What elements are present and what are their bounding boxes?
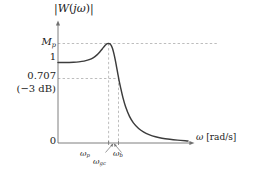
omega-gc-subscript: gc: [100, 160, 106, 166]
magnitude-response-curve: [58, 43, 188, 140]
frequency-response-chart: |W(jω)| Mp 1 0.707 (−3 dB) 0 ωp ωgc ωb ω…: [0, 0, 255, 173]
y-tick-label-mp: Mp: [42, 37, 56, 48]
x-axis-title: ω [rad/s]: [196, 133, 236, 142]
omega-p-subscript: p: [87, 152, 90, 158]
y-axis-title: |W(jω)|: [54, 3, 94, 14]
x-axis-omega-symbol: ω: [196, 132, 203, 142]
omega-b-subscript: b: [120, 152, 123, 158]
x-tick-label-omega-p: ωp: [80, 150, 90, 159]
x-tick-label-omega-b: ωb: [113, 150, 123, 159]
y-tick-label-minus-3db: (−3 dB): [17, 84, 56, 94]
x-axis-units: [rad/s]: [206, 132, 236, 142]
y-tick-label-707: 0.707: [27, 71, 56, 81]
x-axis-arrow: [189, 141, 194, 145]
y-tick-label-zero: 0: [50, 136, 56, 146]
x-tick-label-omega-gc: ωgc: [93, 158, 106, 167]
mp-symbol: M: [42, 36, 52, 47]
y-axis-arrow: [56, 21, 60, 26]
y-tick-label-one: 1: [50, 52, 56, 62]
mp-subscript: p: [52, 41, 56, 49]
